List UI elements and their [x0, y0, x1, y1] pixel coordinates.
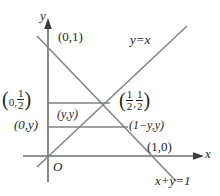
figure-canvas — [0, 0, 220, 196]
point-label-half-half: (12,12) — [119, 89, 150, 112]
point-label-1-0: (1,0) — [147, 140, 172, 153]
fraction-denominator: 2 — [126, 101, 134, 112]
fraction-one-half-y: 12 — [136, 89, 144, 112]
point-label-0-y: (0,y) — [14, 118, 38, 131]
math-figure: (0,1) y=x (0,12) (12,12) (y,y) (0,y) (1−… — [0, 0, 220, 196]
paren-open: ( — [2, 89, 9, 109]
x-axis-label: x — [205, 147, 211, 160]
point-label-one-minus-y-y: (1−y,y) — [129, 119, 164, 131]
point-label-0-1: (0,1) — [58, 30, 83, 43]
point-label-0-half: (0,12) — [2, 88, 31, 111]
fraction-one-half: 12 — [17, 88, 25, 111]
y-axis-label: y — [40, 9, 46, 22]
origin-label: O — [53, 160, 62, 173]
paren-close: ) — [24, 89, 31, 109]
fraction-denominator: 2 — [17, 100, 25, 111]
line-label-x-plus-y-equals-1: x+y=1 — [155, 174, 191, 187]
fraction-one-half-x: 12 — [126, 89, 134, 112]
fraction-numerator: 1 — [17, 88, 25, 100]
point-label-y-y: (y,y) — [57, 108, 78, 120]
paren-open: ( — [119, 90, 126, 110]
fraction-numerator: 1 — [126, 89, 134, 101]
line-label-y-equals-x: y=x — [130, 33, 150, 46]
x-axis-arrowhead — [193, 152, 204, 160]
fraction-numerator: 1 — [136, 89, 144, 101]
paren-close: ) — [143, 90, 150, 110]
fraction-denominator: 2 — [136, 101, 144, 112]
